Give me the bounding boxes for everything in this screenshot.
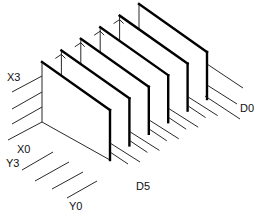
label-x0: X0	[17, 143, 30, 155]
y-lines	[22, 152, 97, 198]
label-x3: X3	[7, 71, 20, 83]
label-y0: Y0	[69, 200, 82, 212]
memory-plane-stack-diagram: X3 X0 Y3 Y0 D5 D0	[0, 0, 259, 214]
label-y3: Y3	[6, 157, 19, 169]
x-lines	[8, 76, 42, 140]
label-d0: D0	[240, 102, 254, 114]
label-d5: D5	[136, 180, 150, 192]
